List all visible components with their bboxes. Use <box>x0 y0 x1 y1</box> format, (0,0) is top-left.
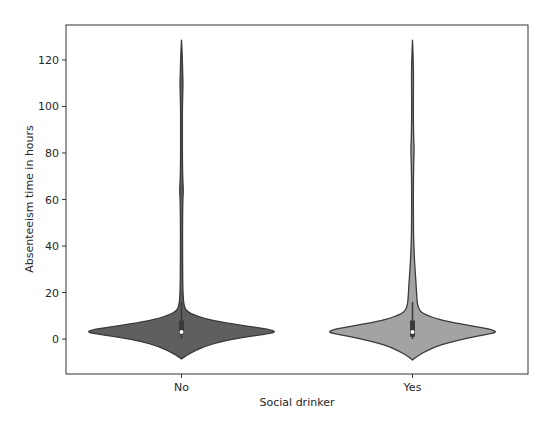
violin-median-dot <box>180 330 184 334</box>
y-tick-label: 40 <box>45 240 59 253</box>
y-tick-label: 0 <box>52 333 59 346</box>
y-axis-title: Absenteeism time in hours <box>23 125 36 273</box>
figure-background <box>0 0 552 429</box>
y-tick-label: 120 <box>38 54 59 67</box>
violin-iqr-box <box>410 320 415 336</box>
violin-median-dot <box>411 330 415 334</box>
y-tick-label: 100 <box>38 100 59 113</box>
y-tick-label: 60 <box>45 194 59 207</box>
y-tick-label: 20 <box>45 287 59 300</box>
x-axis-title: Social drinker <box>260 396 335 409</box>
violin-chart: 020406080100120 NoYes Social drinker Abs… <box>0 0 552 429</box>
x-tick-label: No <box>174 381 189 394</box>
y-tick-label: 80 <box>45 147 59 160</box>
x-tick-label: Yes <box>403 381 422 394</box>
